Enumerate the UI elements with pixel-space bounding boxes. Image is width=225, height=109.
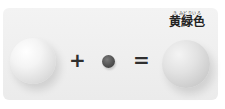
result-label: き みどりいろ 黄緑色 [167,11,207,29]
small-ball-image [102,55,115,68]
equals-sign: = [133,50,150,70]
result-label-text: 黄緑色 [167,16,207,29]
plus-sign: + [69,50,86,70]
result-ball-image [162,40,210,88]
left-ball-image [10,38,56,84]
